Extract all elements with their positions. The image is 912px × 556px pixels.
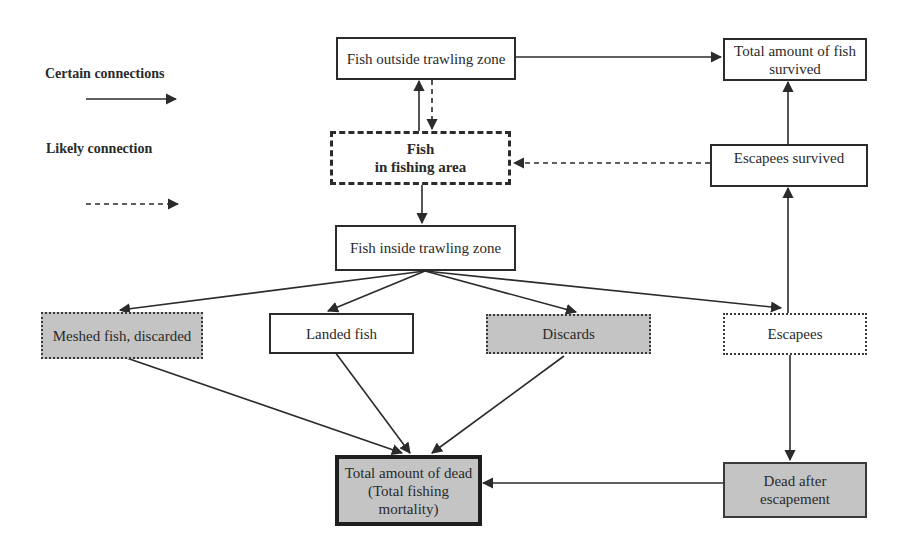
node-fish-outside-trawling-zone: Fish outside trawling zone bbox=[336, 37, 516, 80]
edge-inside-to-discards bbox=[425, 271, 576, 312]
edge-inside-to-escapees bbox=[425, 271, 781, 308]
node-label: Fish inside trawling zone bbox=[350, 239, 501, 257]
node-label: Landed fish bbox=[306, 325, 377, 343]
node-label: Escapees bbox=[768, 325, 823, 343]
node-meshed-fish-discarded: Meshed fish, discarded bbox=[41, 312, 203, 359]
edge-landed-to-dead bbox=[335, 352, 410, 453]
node-label: Total amount of dead (Total fishing mort… bbox=[343, 464, 474, 518]
node-label-line1: Fish bbox=[407, 140, 435, 158]
node-discards: Discards bbox=[486, 314, 651, 354]
node-fish-in-fishing-area: Fish in fishing area bbox=[330, 131, 511, 185]
node-label: Total amount of fish survived bbox=[729, 42, 861, 78]
node-label: Discards bbox=[542, 325, 595, 343]
legend-likely-label: Likely connection bbox=[46, 141, 152, 157]
node-label-line2: in fishing area bbox=[375, 158, 466, 176]
node-total-fish-survived: Total amount of fish survived bbox=[723, 38, 867, 81]
edge-meshed-to-dead bbox=[118, 355, 402, 453]
node-dead-after-escapement: Dead after escapement bbox=[723, 462, 867, 518]
node-label: Meshed fish, discarded bbox=[53, 327, 192, 345]
node-label: Escapees survived bbox=[734, 149, 844, 167]
node-label: Dead after escapement bbox=[729, 472, 861, 508]
edge-discards-to-dead bbox=[432, 356, 564, 453]
node-fish-inside-trawling-zone: Fish inside trawling zone bbox=[335, 225, 516, 271]
node-total-dead-fishing-mortality: Total amount of dead (Total fishing mort… bbox=[335, 455, 482, 526]
node-label: Fish outside trawling zone bbox=[347, 50, 506, 68]
node-landed-fish: Landed fish bbox=[269, 313, 414, 354]
node-escapees: Escapees bbox=[723, 313, 867, 355]
legend-certain-label: Certain connections bbox=[45, 66, 164, 82]
node-escapees-survived: Escapees survived bbox=[710, 144, 868, 187]
